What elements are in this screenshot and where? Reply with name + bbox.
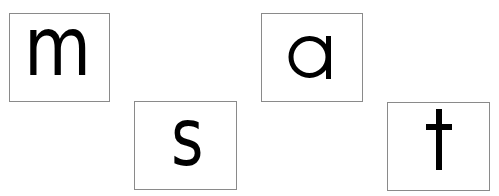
letter-card-m[interactable]: m xyxy=(9,13,110,102)
letter-t xyxy=(426,109,454,171)
letter-t-stem xyxy=(436,109,442,170)
letter-s: s xyxy=(171,98,204,178)
letter-a-stem xyxy=(326,36,331,79)
letter-a xyxy=(288,33,336,81)
letter-a-bowl xyxy=(291,39,328,76)
letter-t-crossbar xyxy=(426,124,452,130)
letter-card-t[interactable] xyxy=(387,102,490,191)
letter-m: m xyxy=(24,7,91,89)
letter-card-a[interactable] xyxy=(261,13,363,102)
letter-card-s[interactable]: s xyxy=(134,101,237,190)
